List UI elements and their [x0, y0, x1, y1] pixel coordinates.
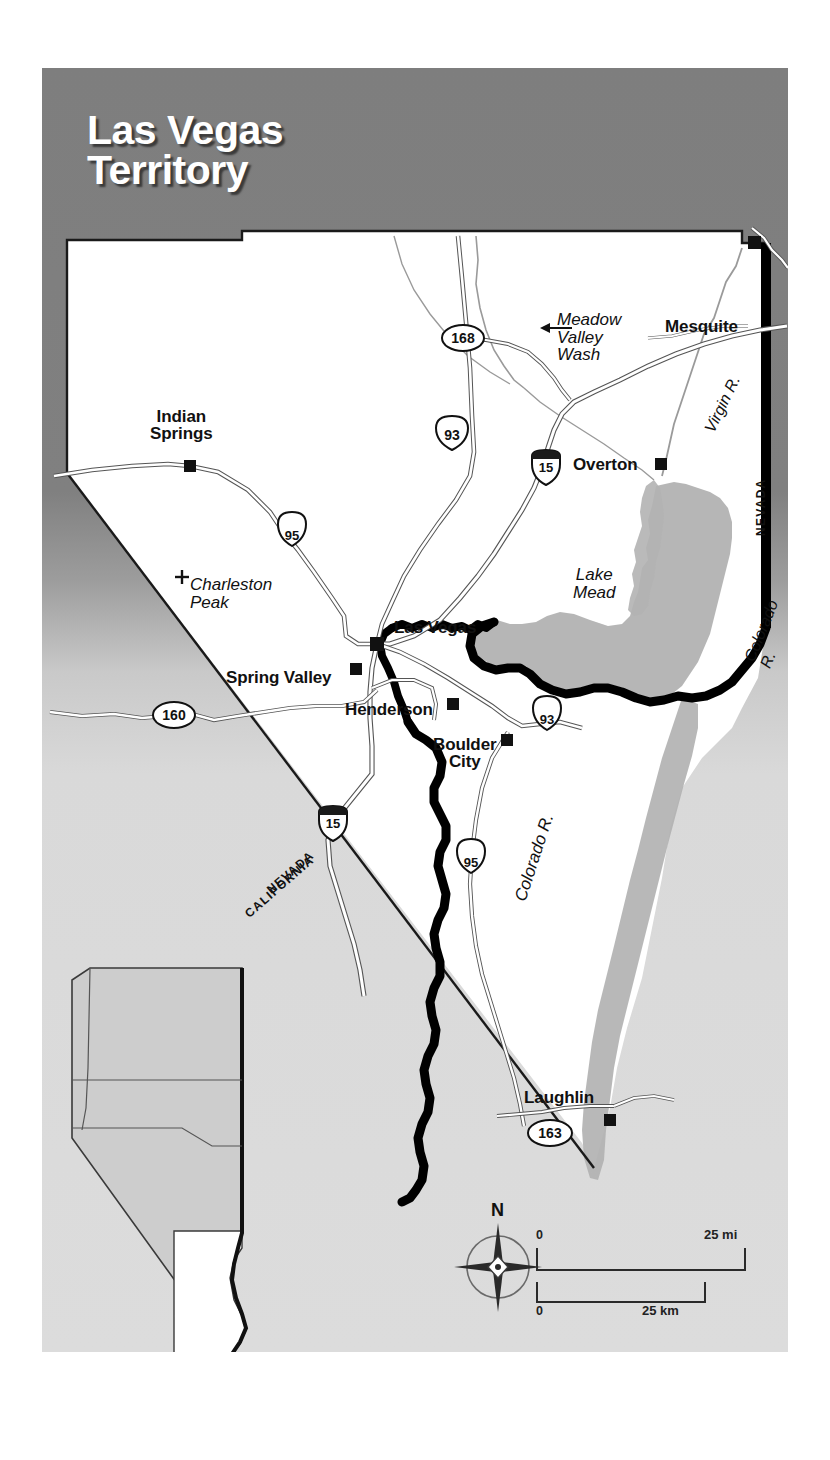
peak-label-charleston-peak: Charleston Peak [190, 576, 272, 611]
svg-text:15: 15 [326, 816, 340, 831]
city-label-indian-springs: Indian Springs [150, 408, 213, 443]
city-label-henderson: Henderson [345, 701, 433, 718]
city-label-las-vegas: Las Vegas [394, 619, 476, 636]
city-label-boulder-city: Boulder City [433, 736, 497, 771]
svg-text:163: 163 [538, 1125, 562, 1141]
compass-rose [454, 1223, 542, 1312]
svg-text:160: 160 [162, 707, 186, 723]
city-marker-las-vegas [370, 637, 384, 651]
city-label-laughlin: Laughlin [524, 1089, 594, 1106]
city-marker-henderson [447, 698, 459, 710]
water-label-lake-mead: Lake Mead [573, 566, 616, 601]
svg-text:168: 168 [451, 330, 475, 346]
nevada-state-inset [72, 968, 246, 1352]
scale-km-value: 25 km [642, 1303, 679, 1318]
city-marker-mesquite [748, 236, 761, 249]
svg-text:95: 95 [285, 528, 299, 543]
shield-163-graphic: 163 [528, 1120, 572, 1146]
state-label-arizona-east: ARIZONA [787, 476, 788, 540]
scale-km-zero: 0 [536, 1304, 543, 1318]
city-marker-spring-valley [350, 663, 362, 675]
city-marker-indian-springs [184, 460, 196, 472]
svg-text:93: 93 [540, 712, 554, 727]
city-marker-boulder-city [501, 734, 513, 746]
page-title: Las Vegas Territory [87, 110, 283, 190]
state-label-nevada-east: NEVADA [754, 478, 768, 536]
shield-168-graphic: 168 [442, 325, 484, 351]
shield-160-graphic: 160 [153, 702, 195, 728]
scale-miles-value: 25 mi [704, 1227, 737, 1242]
map-panel: 168 93 15 95 160 [42, 68, 788, 1352]
svg-text:15: 15 [539, 460, 553, 475]
city-label-spring-valley: Spring Valley [226, 669, 331, 686]
scale-bar-graphic [537, 1248, 745, 1302]
compass-north-label: N [491, 1200, 504, 1221]
city-marker-laughlin [604, 1114, 616, 1126]
scale-miles-zero: 0 [536, 1228, 543, 1242]
water-label-meadow-valley-wash: Meadow Valley Wash [557, 311, 621, 364]
city-label-mesquite: Mesquite [665, 318, 738, 335]
city-label-overton: Overton [573, 456, 637, 473]
svg-text:95: 95 [464, 855, 478, 870]
city-marker-overton [655, 458, 667, 470]
svg-text:93: 93 [444, 427, 460, 443]
